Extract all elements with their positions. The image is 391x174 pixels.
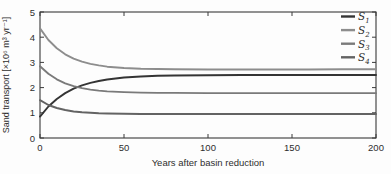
y-tick-label: 3	[30, 57, 35, 68]
legend-label-S2: S2	[358, 24, 370, 39]
y-tick-label: 1	[30, 107, 35, 118]
y-tick-label: 4	[30, 32, 35, 43]
y-tick-label: 0	[30, 133, 35, 144]
series-line-S4	[40, 100, 376, 114]
x-tick-label: 50	[119, 142, 130, 153]
x-tick-label: 0	[37, 142, 42, 153]
legend-label-S4: S4	[358, 51, 370, 66]
y-tick-label: 2	[30, 82, 35, 93]
sand-transport-chart: 050100150200012345Years after basin redu…	[0, 0, 391, 174]
x-tick-label: 200	[368, 142, 384, 153]
y-axis-label: Sand transport [×10⁶ m³ yr⁻¹]	[1, 17, 11, 134]
x-tick-label: 150	[284, 142, 300, 153]
chart-canvas: 050100150200012345Years after basin redu…	[0, 0, 391, 174]
x-axis-label: Years after basin reduction	[152, 157, 265, 168]
legend-label-S3: S3	[358, 38, 370, 53]
series-line-S2	[40, 28, 376, 69]
y-tick-label: 5	[30, 7, 35, 18]
x-tick-label: 100	[200, 142, 216, 153]
series-line-S1	[40, 75, 376, 117]
